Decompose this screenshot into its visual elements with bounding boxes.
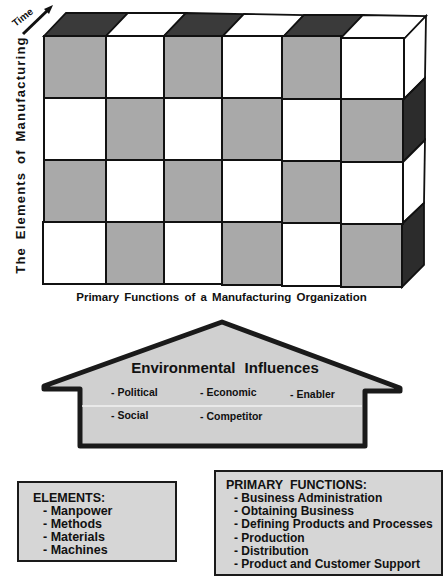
- function-item: - Defining Products and Processes: [226, 518, 441, 531]
- elements-box: ELEMENTS: - Manpower - Methods - Materia…: [17, 481, 177, 562]
- influence-enabler: - Enabler: [290, 388, 335, 400]
- side-face: [402, 16, 426, 287]
- influence-competitor: - Competitor: [200, 410, 262, 422]
- front-face-grid: [43, 36, 404, 287]
- influence-political: - Political: [111, 386, 158, 398]
- elements-title: ELEMENTS:: [33, 491, 175, 505]
- function-item: - Production: [226, 532, 441, 545]
- function-item: - Product and Customer Support: [226, 558, 441, 571]
- horizontal-axis-label: Primary Functions of a Manufacturing Org…: [0, 291, 443, 303]
- environmental-influences-house: [44, 322, 400, 446]
- environmental-influences-title: Environmental Influences: [100, 359, 350, 376]
- influence-social: - Social: [111, 409, 148, 421]
- element-item: - Machines: [33, 544, 175, 557]
- primary-functions-box: PRIMARY FUNCTIONS: - Business Administra…: [214, 470, 443, 576]
- functions-title: PRIMARY FUNCTIONS:: [226, 478, 441, 492]
- vertical-axis-label: The Elements of Manufacturing: [13, 36, 28, 273]
- influence-economic: - Economic: [200, 386, 257, 398]
